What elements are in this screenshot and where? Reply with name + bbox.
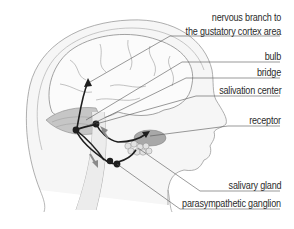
label-bulb: bulb [265, 50, 281, 62]
label-parasympathetic-ganglion: parasympathetic ganglion [182, 197, 281, 209]
label-nervous-branch: nervous branch to the gustatory cortex a… [185, 11, 281, 37]
label-receptor: receptor [249, 114, 281, 126]
label-nervous-branch-line1: nervous branch to [185, 11, 281, 23]
label-salivary-gland: salivary gland [228, 179, 281, 191]
label-salivation-center: salivation center [219, 84, 281, 96]
label-bridge: bridge [257, 66, 281, 78]
label-nervous-branch-line2: the gustatory cortex area [185, 25, 281, 37]
salivation-diagram: nervous branch to the gustatory cortex a… [0, 0, 294, 229]
